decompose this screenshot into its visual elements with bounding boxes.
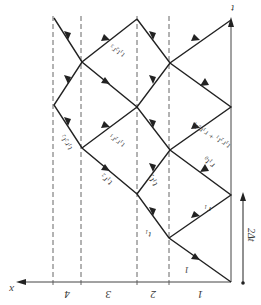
svg-text:t₁r₂t₁ + r₁r₀t₁: t₁r₂t₁ + r₁r₀t₁	[190, 122, 231, 151]
x-axis	[16, 279, 231, 285]
labels: x t 1 2 3 4 2Δt 1 t₁ r₁ r₁t₀ t₁t₂ t₁r₂ t…	[9, 3, 257, 301]
layer-1-label: 1	[198, 289, 204, 301]
layer-3-label: 3	[105, 289, 112, 301]
t-axis	[228, 17, 234, 282]
t-axis-label: t	[231, 3, 234, 14]
svg-text:t₁r₂r₁: t₁r₂r₁	[107, 133, 126, 149]
svg-text:t₁: t₁	[145, 230, 151, 240]
wave-ray-diagram: x t 1 2 3 4 2Δt 1 t₁ r₁ r₁t₀ t₁t₂ t₁r₂ t…	[0, 0, 261, 305]
layer-boundaries	[53, 16, 169, 288]
layer-4-label: 4	[64, 289, 70, 301]
svg-text:t₁r₂: t₁r₂	[98, 173, 114, 188]
x-axis-arrow-icon	[16, 279, 26, 285]
svg-text:t₁t₂: t₁t₂	[144, 174, 159, 189]
svg-text:1: 1	[185, 265, 190, 275]
x-axis-label: x	[9, 284, 15, 296]
interval-arrow	[240, 192, 246, 285]
interval-label: 2Δt	[246, 228, 257, 242]
svg-text:r₁: r₁	[204, 205, 211, 215]
diagram-canvas: x t 1 2 3 4 2Δt 1 t₁ r₁ r₁t₀ t₁t₂ t₁r₂ t…	[0, 0, 261, 305]
svg-text:t₁t₂r₃: t₁t₂r₃	[107, 44, 125, 60]
svg-text:t₁r₂t₂: t₁r₂t₂	[57, 134, 74, 152]
layer-2-label: 2	[150, 289, 156, 301]
